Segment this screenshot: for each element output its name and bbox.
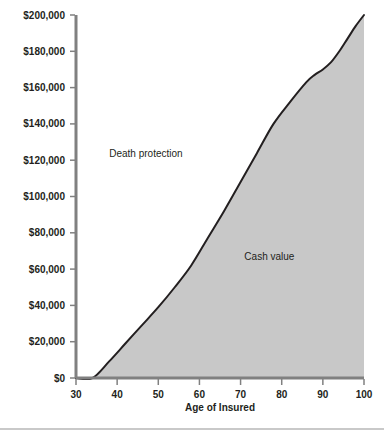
x-axis-title: Age of Insured [185,402,255,413]
x-tick-label: 90 [317,389,329,400]
y-tick-label: $200,000 [23,10,65,21]
y-tick-label: $100,000 [23,191,65,202]
chart-canvas: $0$20,000$40,000$60,000$80,000$100,000$1… [0,0,384,435]
cash-value-label: Cash value [244,251,294,262]
y-tick-label: $80,000 [29,227,66,238]
y-tick-label: $120,000 [23,155,65,166]
life-insurance-cash-value-chart: $0$20,000$40,000$60,000$80,000$100,000$1… [0,0,384,435]
x-tick-label: 70 [235,389,247,400]
death-protection-label: Death protection [109,148,182,159]
footer-divider [0,428,384,430]
y-tick-label: $40,000 [29,300,66,311]
y-tick-label: $140,000 [23,118,65,129]
y-tick-label: $60,000 [29,264,66,275]
x-tick-label: 60 [194,389,206,400]
x-tick-label: 40 [112,389,124,400]
y-tick-label: $20,000 [29,336,66,347]
y-tick-label: $160,000 [23,82,65,93]
x-tick-label: 80 [276,389,288,400]
x-tick-label: 50 [153,389,165,400]
y-tick-label: $0 [54,373,66,384]
x-tick-label: 100 [356,389,373,400]
y-tick-label: $180,000 [23,46,65,57]
x-tick-label: 30 [70,389,82,400]
